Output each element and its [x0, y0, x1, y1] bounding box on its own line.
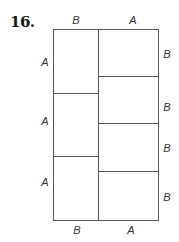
right-label-1: B	[163, 48, 170, 60]
left-label-2: A	[40, 115, 48, 127]
left-label-1: A	[40, 56, 48, 68]
right-label-4: B	[163, 191, 170, 203]
outer-rectangle	[54, 30, 159, 221]
bottom-label-left: B	[73, 224, 80, 236]
bottom-label-right: A	[126, 224, 134, 236]
top-label-right: A	[128, 14, 136, 26]
right-label-2: B	[163, 101, 170, 113]
right-label-3: B	[163, 142, 170, 154]
partitioned-rectangle-figure: B A B A A A A B B B B	[0, 0, 179, 242]
top-label-left: B	[72, 14, 79, 26]
left-label-3: A	[40, 176, 48, 188]
